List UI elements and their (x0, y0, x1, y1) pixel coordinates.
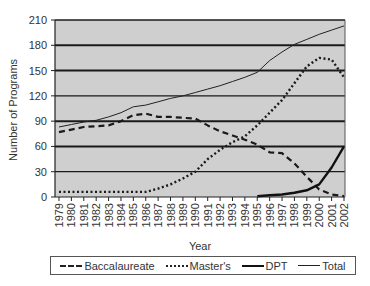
x-tick-label: 1989 (177, 203, 189, 227)
legend-item-baccalaureate: Baccalaureate (60, 260, 154, 272)
y-tick-label: 180 (29, 39, 47, 51)
legend-label: Total (322, 260, 345, 272)
legend-label: Baccalaureate (84, 260, 154, 272)
x-tick-label: 1988 (165, 203, 177, 227)
x-tick-label: 1995 (251, 203, 263, 227)
x-tick-label: 1993 (226, 203, 238, 227)
y-tick-label: 150 (29, 65, 47, 77)
x-tick-label: 1992 (214, 203, 226, 227)
x-tick-label: 1998 (288, 203, 300, 227)
x-tick-label: 1994 (239, 203, 251, 227)
legend: Baccalaureate Master's DPT Total (50, 256, 356, 275)
y-tick-label: 30 (35, 166, 47, 178)
plot-area (55, 20, 345, 197)
legend-item-total: Total (298, 260, 345, 272)
x-tick-label: 2000 (313, 203, 325, 227)
y-axis-ticks: 0306090120150180210 (29, 14, 55, 203)
x-tick-label: 1984 (115, 203, 127, 227)
x-tick-label: 1990 (189, 203, 201, 227)
x-tick-label: 1983 (103, 203, 115, 227)
y-tick-label: 210 (29, 14, 47, 26)
thick-line-icon (242, 265, 264, 267)
x-tick-label: 2001 (326, 203, 338, 227)
x-tick-label: 1981 (78, 203, 90, 227)
legend-item-masters: Master's (166, 260, 231, 272)
x-tick-label: 2002 (338, 203, 350, 227)
thin-line-icon (298, 265, 320, 266)
x-tick-label: 1991 (202, 203, 214, 227)
x-tick-label: 1979 (53, 203, 65, 227)
y-tick-label: 0 (41, 191, 47, 203)
x-tick-label: 1999 (301, 203, 313, 227)
dotted-line-icon (166, 265, 188, 267)
y-tick-label: 90 (35, 115, 47, 127)
x-tick-label: 1997 (276, 203, 288, 227)
legend-label: Master's (190, 260, 231, 272)
x-axis-title: Year (189, 240, 212, 252)
x-tick-label: 1982 (90, 203, 102, 227)
y-axis-title: Number of Programs (7, 58, 19, 161)
y-tick-label: 60 (35, 140, 47, 152)
x-tick-label: 1986 (140, 203, 152, 227)
x-tick-label: 1987 (152, 203, 164, 227)
x-tick-label: 1980 (65, 203, 77, 227)
x-tick-label: 1996 (264, 203, 276, 227)
legend-item-dpt: DPT (242, 260, 288, 272)
line-chart: 0306090120150180210 19791980198119821983… (0, 0, 370, 256)
x-axis-ticks: 1979198019811982198319841985198619871988… (53, 197, 350, 227)
y-tick-label: 120 (29, 90, 47, 102)
legend-label: DPT (266, 260, 288, 272)
x-tick-label: 1985 (127, 203, 139, 227)
dashed-line-icon (60, 265, 82, 267)
